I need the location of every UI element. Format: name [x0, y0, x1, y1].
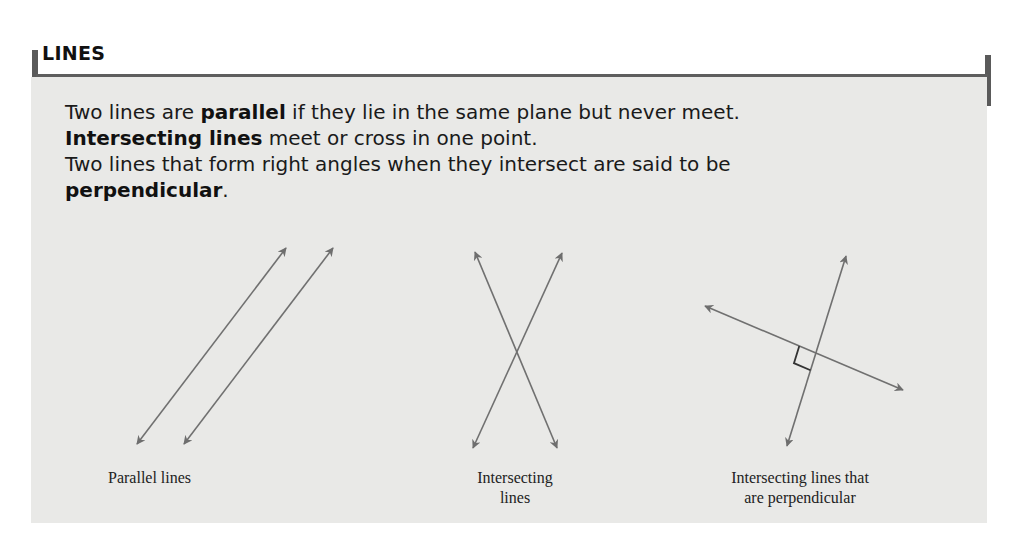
line-with-arrows: [475, 252, 557, 448]
perpendicular-lines-figure: [705, 256, 903, 446]
caption-line: Intersecting: [455, 468, 575, 488]
caption-line: Intersecting lines that: [700, 468, 900, 488]
line-with-arrows: [184, 248, 333, 444]
parallel-lines-figure: [137, 248, 333, 444]
line-with-arrows: [705, 306, 903, 390]
intersecting-lines-figure: [473, 252, 562, 448]
caption-intersecting-lines: Intersecting lines: [455, 468, 575, 508]
line-diagrams: [0, 0, 1017, 534]
caption-perpendicular-lines: Intersecting lines that are perpendicula…: [700, 468, 900, 508]
lines-concept-box: LINES Two lines are parallel if they lie…: [0, 0, 1017, 534]
caption-line: lines: [455, 488, 575, 508]
caption-parallel-lines: Parallel lines: [90, 468, 268, 488]
line-with-arrows: [787, 256, 846, 446]
line-with-arrows: [473, 253, 562, 448]
caption-line: are perpendicular: [700, 488, 900, 508]
line-with-arrows: [137, 248, 286, 444]
